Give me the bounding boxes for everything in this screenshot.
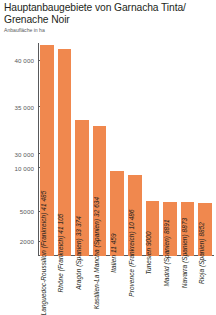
bar[interactable]: Languedoc-Roussillon (Frankreich) 41 485 [40,45,54,256]
y-axis-tick-label: 30 000 [14,150,38,157]
bar-label: Madrid (Spanien) 8891 [163,219,170,286]
bar-slot: Rioja (Spanien) 8852 [196,43,214,256]
bar-slot: Tunesien 9000 [144,43,162,256]
y-axis-tick-label: 40 000 [14,57,38,64]
bar-slot: Italien 11 459 [108,43,126,256]
bar-label: Tunesien 9000 [145,231,152,274]
y-axis-tick-label: 10 000 [14,164,38,171]
bar-label: Navarra (Spanien) 8873 [181,218,188,288]
bar[interactable]: Madrid (Spanien) 8891 [163,202,177,256]
bar-slot: Provence (Frankreich) 10 486 [126,43,144,256]
bar-slot: Navarra (Spanien) 8873 [179,43,197,256]
chart-subtitle: Anbaufläche in ha [4,27,45,33]
bar[interactable]: Italien 11 459 [110,171,124,256]
bar-label: Rhône (Frankreich) 41 105 [57,214,64,293]
bar-slot: Kastilien-La Mancha (Spanien) 32 634 [91,43,109,256]
bar-slot: Aragón (Spanien) 33 374 [73,43,91,256]
page-title: Hauptanbaugebiete von Garnacha Tinta/ Gr… [4,2,212,25]
bar[interactable]: Provence (Frankreich) 10 486 [128,175,142,256]
bar[interactable]: Navarra (Spanien) 8873 [181,202,195,256]
bar[interactable]: Aragón (Spanien) 33 374 [75,120,89,256]
bar-label: Italien 11 459 [110,233,117,272]
y-axis-tick-label: 2000 [20,238,38,245]
bar-slot: Madrid (Spanien) 8891 [161,43,179,256]
bar[interactable]: Tunesien 9000 [146,201,160,256]
y-axis-tick-label: 35 000 [14,103,38,110]
bar-label: Aragón (Spanien) 33 374 [75,216,82,290]
bar-label: Rioja (Spanien) 8852 [198,222,205,284]
bar[interactable]: Rioja (Spanien) 8852 [198,203,212,256]
bar[interactable]: Kastilien-La Mancha (Spanien) 32 634 [93,126,107,256]
bar-label: Languedoc-Roussillon (Frankreich) 41 485 [40,191,47,315]
bar-label: Kastilien-La Mancha (Spanien) 32 634 [93,197,100,309]
bar-slot: Languedoc-Roussillon (Frankreich) 41 485 [38,43,56,256]
bar-slot: Rhône (Frankreich) 41 105 [56,43,74,256]
bar-series: Languedoc-Roussillon (Frankreich) 41 485… [38,43,214,256]
bar-label: Provence (Frankreich) 10 486 [128,209,135,296]
plot-area: 40 00035 00030 00010 00050002000 Langued… [38,43,214,256]
bar[interactable]: Rhône (Frankreich) 41 105 [58,49,72,256]
y-axis-tick-label: 5000 [20,208,38,215]
